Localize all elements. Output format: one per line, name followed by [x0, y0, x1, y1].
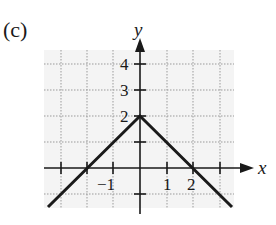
graph: x y −1 1 2 2 3 4: [0, 0, 276, 225]
y-tick-label: 3: [120, 81, 129, 100]
x-tick-label: 1: [163, 175, 172, 194]
x-tick-label: 2: [187, 175, 196, 194]
y-tick-label: 2: [120, 107, 129, 126]
y-axis-arrow-icon: [135, 38, 145, 52]
x-axis-arrow-icon: [240, 163, 254, 173]
y-tick-label: 4: [120, 55, 129, 74]
x-tick-label: −1: [97, 175, 115, 194]
y-axis-label: y: [132, 19, 143, 40]
x-axis-label: x: [257, 157, 267, 178]
